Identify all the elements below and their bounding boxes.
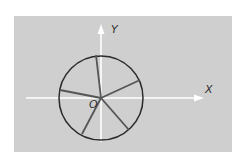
coordinate-diagram: Y X O [0,0,244,159]
background-panel [14,16,232,152]
origin-label: O [89,98,98,111]
x-axis-label: X [204,83,213,96]
